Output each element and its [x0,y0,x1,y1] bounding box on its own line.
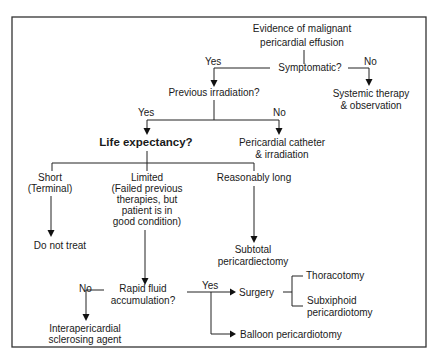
node-sclerosing-line1: Interapericardial [49,323,121,334]
flowchart: Evidence of malignant pericardial effusi… [0,0,434,354]
node-limited-line5: good condition) [113,216,181,227]
node-rapid-line1: Rapid fluid [119,283,166,294]
label-yes-1: Yes [205,56,221,67]
node-catheter-line2: & irradiation [255,149,308,160]
node-balloon: Balloon pericardiotomy [240,329,342,340]
node-short-line1: Short [38,172,62,183]
node-irradiation: Previous irradiation? [168,87,260,98]
node-systemic-line1: Systemic therapy [333,88,410,99]
node-symptomatic: Symptomatic? [278,62,342,73]
node-start-line2: pericardial effusion [260,37,344,48]
node-subxiphoid-line1: Subxiphoid [307,295,356,306]
label-no-1: No [364,56,377,67]
node-do-not-treat: Do not treat [34,240,86,251]
node-catheter-line1: Pericardial catheter [239,137,326,148]
label-yes-3: Yes [202,280,218,291]
node-start-line1: Evidence of malignant [253,23,352,34]
label-no-2: No [273,107,286,118]
node-subxiphoid-line2: pericardiotomy [307,307,373,318]
node-limited-line3: therapies, but [117,194,178,205]
node-limited-line4: patient is in [122,205,173,216]
node-surgery: Surgery [239,287,274,298]
node-life-expectancy: Life expectancy? [99,136,192,148]
node-subtotal-line2: pericardiectomy [218,256,289,267]
node-rapid-line2: accumulation? [111,295,176,306]
node-systemic-line2: & observation [340,100,401,111]
node-limited-line2: (Failed previous [111,183,182,194]
label-yes-2: Yes [138,107,154,118]
node-short-line2: (Terminal) [28,183,72,194]
label-no-3: No [79,283,92,294]
node-reasonably-long: Reasonably long [217,172,292,183]
node-sclerosing-line2: sclerosing agent [49,334,122,345]
node-limited-line1: Limited [131,172,163,183]
node-thoracotomy: Thoracotomy [306,270,364,281]
node-subtotal-line1: Subtotal [235,244,272,255]
